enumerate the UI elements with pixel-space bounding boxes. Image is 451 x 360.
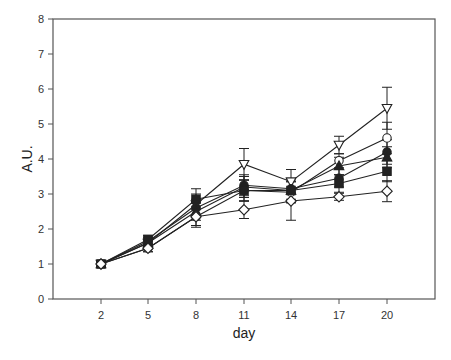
y-tick-label: 1 xyxy=(38,258,44,270)
square-marker xyxy=(287,186,295,194)
x-tick-label: 5 xyxy=(145,309,151,321)
x-tick-label: 17 xyxy=(333,309,345,321)
triangle-down-marker xyxy=(334,141,344,150)
y-axis: 012345678 xyxy=(38,13,53,305)
y-tick-label: 2 xyxy=(38,223,44,235)
y-tick-label: 0 xyxy=(38,293,44,305)
square-marker xyxy=(240,186,248,194)
x-tick-label: 14 xyxy=(285,309,297,321)
line-chart: 012345678 25811141720 A.U. day xyxy=(0,0,451,360)
y-tick-label: 3 xyxy=(38,188,44,200)
y-tick-label: 5 xyxy=(38,118,44,130)
x-tick-label: 11 xyxy=(238,309,249,321)
diamond-marker xyxy=(286,196,296,206)
y-axis-title: A.U. xyxy=(19,145,35,172)
triangle-down-marker xyxy=(239,160,249,169)
x-tick-label: 20 xyxy=(381,309,393,321)
triangle-down-marker xyxy=(382,104,392,113)
square-marker xyxy=(192,195,200,203)
circle-marker xyxy=(383,134,391,142)
y-tick-label: 7 xyxy=(38,48,44,60)
y-tick-label: 6 xyxy=(38,83,44,95)
square-marker xyxy=(383,167,391,175)
diamond-marker xyxy=(239,205,249,215)
x-tick-label: 8 xyxy=(193,309,199,321)
y-tick-label: 4 xyxy=(38,153,44,165)
square-marker xyxy=(335,179,343,187)
x-axis-title: day xyxy=(233,325,256,341)
diamond-marker xyxy=(382,186,392,196)
x-axis: 25811141720 xyxy=(98,299,393,321)
x-tick-label: 2 xyxy=(98,309,104,321)
series-layer xyxy=(96,87,392,269)
y-tick-label: 8 xyxy=(38,13,44,25)
